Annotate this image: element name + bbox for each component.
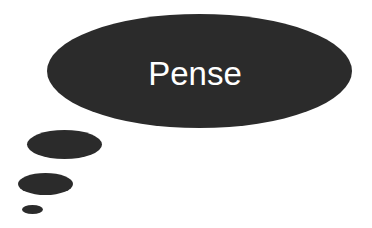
trail-bubble-small: [22, 205, 43, 214]
trail-bubble-large: [27, 130, 102, 159]
thought-bubble-diagram: Pense: [0, 0, 372, 228]
thought-bubble-label: Pense: [148, 55, 242, 92]
trail-bubble-medium: [18, 173, 73, 195]
